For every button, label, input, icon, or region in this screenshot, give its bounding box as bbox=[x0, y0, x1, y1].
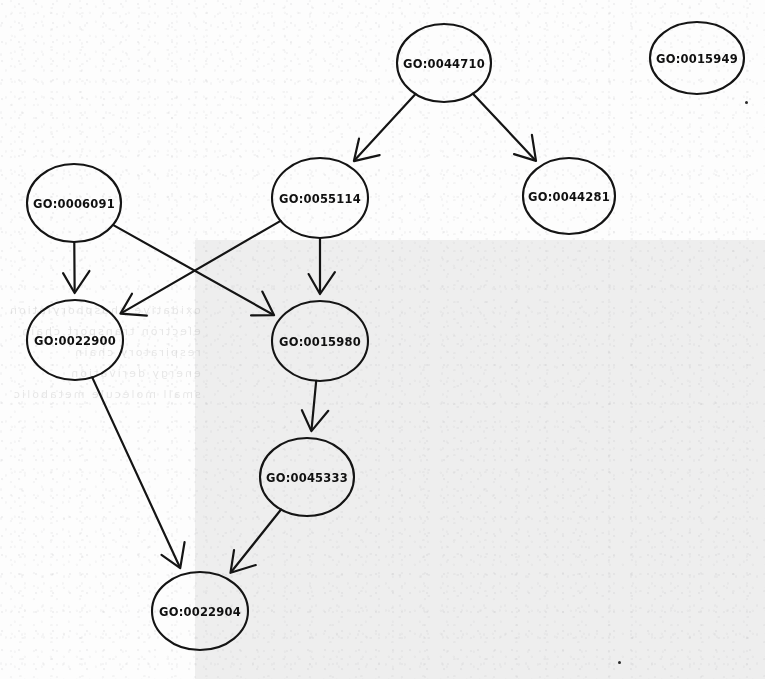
node-label: GO:0015949 bbox=[656, 52, 738, 66]
node-label: GO:0055114 bbox=[279, 192, 361, 206]
node-label: GO:0015980 bbox=[279, 335, 361, 349]
node-label: GO:0006091 bbox=[33, 197, 115, 211]
graph-edge bbox=[92, 377, 179, 566]
node-label: GO:0022900 bbox=[34, 334, 116, 348]
diagram-canvas: oxidative phosphorylation electron trans… bbox=[0, 0, 765, 679]
scan-speck bbox=[618, 661, 621, 664]
graph-node[interactable]: GO:0015980 bbox=[272, 301, 368, 381]
scan-speck bbox=[745, 101, 748, 104]
arrow-head-icon bbox=[309, 272, 335, 294]
graph-node[interactable]: GO:0044710 bbox=[397, 24, 491, 102]
graph-edge bbox=[122, 221, 280, 313]
node-label: GO:0044710 bbox=[403, 57, 485, 71]
node-label: GO:0022904 bbox=[159, 605, 241, 619]
graph-node[interactable]: GO:0044281 bbox=[523, 158, 615, 234]
arrow-head-icon bbox=[63, 271, 89, 293]
graph-node[interactable]: GO:0055114 bbox=[272, 158, 368, 238]
graph-node[interactable]: GO:0022904 bbox=[152, 572, 248, 650]
graph-node[interactable]: GO:0045333 bbox=[260, 438, 354, 516]
nodes-layer: GO:0044710GO:0015949GO:0006091GO:0055114… bbox=[27, 22, 744, 650]
graph-node[interactable]: GO:0015949 bbox=[650, 22, 744, 94]
graph-node[interactable]: GO:0022900 bbox=[27, 300, 123, 380]
node-label: GO:0044281 bbox=[528, 190, 610, 204]
graph-edge bbox=[473, 94, 535, 160]
graph-edge bbox=[232, 510, 281, 572]
arrow-head-icon bbox=[302, 410, 328, 431]
go-term-graph: GO:0044710GO:0015949GO:0006091GO:0055114… bbox=[0, 0, 765, 679]
graph-edge bbox=[355, 94, 415, 160]
graph-node[interactable]: GO:0006091 bbox=[27, 164, 121, 242]
edges-layer bbox=[63, 94, 536, 573]
node-label: GO:0045333 bbox=[266, 471, 348, 485]
graph-edge bbox=[312, 381, 317, 429]
